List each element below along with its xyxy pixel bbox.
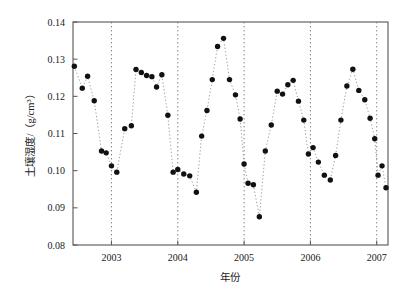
data-point: [263, 148, 268, 153]
data-point: [109, 163, 114, 168]
x-axis-label: 年份: [220, 271, 241, 283]
data-point: [175, 167, 180, 172]
data-point: [154, 84, 159, 89]
data-point: [375, 172, 380, 177]
data-point: [99, 148, 104, 153]
xtick-label-1: 2004: [168, 252, 188, 263]
ytick-label-3: 0.11: [48, 128, 65, 139]
data-point: [139, 70, 144, 75]
soil-moisture-scatter-chart: 0.080.090.100.110.120.130.14 20032004200…: [0, 0, 408, 290]
data-point: [103, 150, 108, 155]
data-point: [85, 74, 90, 79]
data-point: [80, 85, 85, 90]
data-point: [133, 67, 138, 72]
data-point: [301, 117, 306, 122]
data-point: [285, 82, 290, 87]
data-point: [221, 36, 226, 41]
data-point: [204, 108, 209, 113]
data-point: [149, 74, 154, 79]
chart-figure: 0.080.090.100.110.120.130.14 20032004200…: [0, 0, 408, 290]
data-point: [367, 116, 372, 121]
data-point: [350, 67, 355, 72]
data-point: [199, 133, 204, 138]
data-point: [275, 88, 280, 93]
data-point: [322, 172, 327, 177]
data-point: [181, 171, 186, 176]
data-point: [280, 91, 285, 96]
data-point: [338, 117, 343, 122]
data-point: [316, 159, 321, 164]
data-point: [290, 78, 295, 83]
data-point: [241, 161, 246, 166]
data-point: [383, 185, 388, 190]
ytick-label-4: 0.12: [48, 91, 66, 102]
data-point: [306, 151, 311, 156]
data-point: [144, 73, 149, 78]
data-point: [245, 181, 250, 186]
xtick-label-4: 2007: [367, 252, 387, 263]
data-point: [165, 113, 170, 118]
data-point: [187, 173, 192, 178]
data-point: [159, 72, 164, 77]
ytick-label-0: 0.08: [48, 240, 66, 251]
data-point: [379, 163, 384, 168]
data-point: [310, 145, 315, 150]
ytick-label-5: 0.13: [48, 54, 66, 65]
data-point: [129, 123, 134, 128]
data-point: [362, 97, 367, 102]
data-point: [72, 64, 77, 69]
data-point: [92, 98, 97, 103]
data-point: [194, 190, 199, 195]
ytick-label-2: 0.10: [48, 165, 66, 176]
data-point: [170, 169, 175, 174]
xtick-label-0: 2003: [101, 252, 121, 263]
xtick-label-3: 2006: [300, 252, 320, 263]
data-point: [114, 169, 119, 174]
data-point: [233, 92, 238, 97]
y-axis-label: 土壤湿度/（g/cm³）: [24, 89, 36, 176]
data-point: [344, 83, 349, 88]
data-point: [257, 214, 262, 219]
xtick-label-2: 2005: [234, 252, 254, 263]
data-point: [237, 116, 242, 121]
data-point: [251, 182, 256, 187]
ytick-label-6: 0.14: [48, 17, 66, 28]
data-point: [122, 126, 127, 131]
data-point: [215, 44, 220, 49]
data-point: [372, 136, 377, 141]
data-point: [356, 88, 361, 93]
ytick-label-1: 0.09: [48, 202, 66, 213]
data-point: [296, 98, 301, 103]
data-point: [210, 77, 215, 82]
data-point: [333, 153, 338, 158]
data-point: [269, 122, 274, 127]
data-point: [328, 177, 333, 182]
data-point: [227, 77, 232, 82]
